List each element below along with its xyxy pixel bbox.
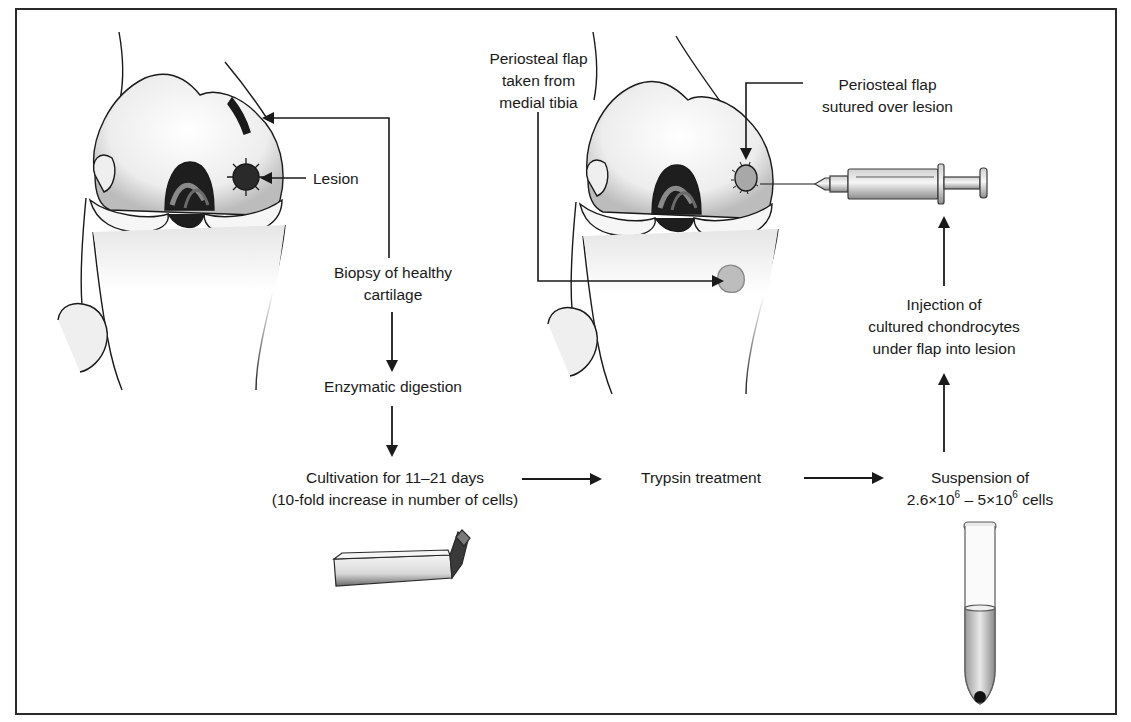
label-suspension-line2: 2.6×106 – 5×106 cells: [880, 489, 1080, 511]
label-suspension-line1: Suspension of: [880, 467, 1080, 489]
label-cultivation: Cultivation for 11–21 days (10-fold incr…: [235, 467, 555, 511]
label-injection-line1: Injection of: [852, 294, 1036, 316]
label-injection-line2: cultured chondrocytes: [852, 316, 1036, 338]
suspension-value-high: – 5×10: [960, 491, 1012, 508]
label-lesion: Lesion: [313, 168, 359, 190]
label-flap-sutured-line2: sutured over lesion: [800, 96, 975, 118]
label-cultivation-line2: (10-fold increase in number of cells): [235, 489, 555, 511]
suspension-unit: cells: [1018, 491, 1053, 508]
label-flap-taken-line3: medial tibia: [466, 92, 611, 114]
label-suspension: Suspension of 2.6×106 – 5×106 cells: [880, 467, 1080, 511]
syringe-icon: [760, 164, 987, 204]
label-flap-sutured-line1: Periosteal flap: [800, 74, 975, 96]
label-cultivation-line1: Cultivation for 11–21 days: [235, 467, 555, 489]
test-tube-icon: [964, 522, 996, 704]
knee-left-icon: [58, 32, 285, 390]
label-injection-line3: under flap into lesion: [852, 338, 1036, 360]
label-biopsy-line1: Biopsy of healthy: [323, 262, 463, 284]
label-flap-taken-line2: taken from: [466, 70, 611, 92]
label-flap-sutured: Periosteal flap sutured over lesion: [800, 74, 975, 118]
suspension-exponent-low: 6: [955, 489, 961, 500]
label-biopsy: Biopsy of healthy cartilage: [323, 262, 463, 306]
label-flap-taken-line1: Periosteal flap: [466, 48, 611, 70]
label-flap-taken: Periosteal flap taken from medial tibia: [466, 48, 611, 114]
suspension-value-low: 2.6×10: [907, 491, 955, 508]
label-enzymatic-digestion: Enzymatic digestion: [308, 376, 478, 398]
label-biopsy-line2: cartilage: [323, 284, 463, 306]
culture-flask-icon: [334, 530, 470, 586]
suspension-exponent-high: 6: [1012, 489, 1018, 500]
label-injection: Injection of cultured chondrocytes under…: [852, 294, 1036, 360]
label-trypsin-treatment: Trypsin treatment: [616, 467, 786, 489]
